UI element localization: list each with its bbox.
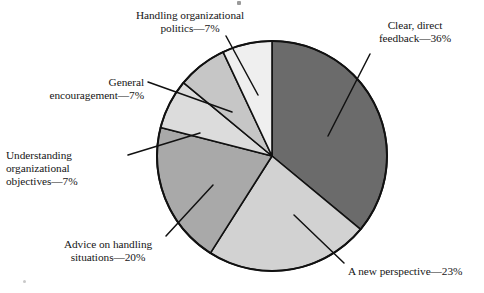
- pie-chart-figure: Handling organizationalpolitics—7% Clear…: [0, 0, 484, 293]
- pie-label-line-1: A new perspective—23%: [348, 265, 462, 277]
- pie-label-understanding-organizational-objectives: Understandingorganizationalobjectives—7%: [6, 149, 126, 189]
- pie-label-line-1: Clear, direct: [388, 19, 443, 31]
- pie-label-line-2: encouragement—7%: [49, 89, 144, 101]
- page-artifact-top: [237, 1, 241, 5]
- pie-label-clear-direct-feedback: Clear, directfeedback—36%: [355, 19, 475, 45]
- page-artifact-bottom: [23, 280, 26, 283]
- pie-label-line-2: organizational: [6, 162, 70, 174]
- pie-label-line-1: Understanding: [6, 149, 72, 161]
- pie-label-line-3: objectives—7%: [6, 175, 78, 187]
- pie-label-advice-on-handling-situations: Advice on handlingsituations—20%: [40, 238, 176, 264]
- pie-label-line-1: General: [109, 76, 144, 88]
- pie-label-line-2: feedback—36%: [379, 32, 451, 44]
- pie-label-line-2: politics—7%: [160, 22, 219, 34]
- pie-label-line-2: situations—20%: [71, 251, 146, 263]
- pie-label-general-encouragement: Generalencouragement—7%: [14, 76, 144, 102]
- pie-label-line-1: Advice on handling: [64, 238, 152, 250]
- pie-label-a-new-perspective: A new perspective—23%: [348, 265, 484, 278]
- pie-label-line-1: Handling organizational: [136, 9, 244, 21]
- pie-slices: [157, 41, 387, 271]
- pie-label-handling-organizational-politics: Handling organizationalpolitics—7%: [120, 9, 260, 35]
